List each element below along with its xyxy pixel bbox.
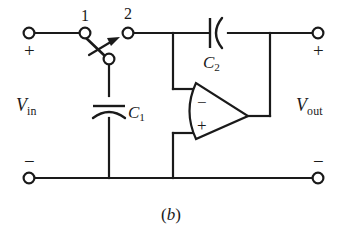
output-minus-sign: −: [313, 152, 324, 171]
input-voltage-symbol: V: [16, 95, 27, 115]
terminal-input-negative[interactable]: [24, 173, 35, 184]
spdt-switch[interactable]: [85, 37, 120, 57]
circuit-figure: 1 2 + − + − Vin Vout C1 C2 − + (b): [0, 0, 352, 235]
c2-symbol: C: [203, 53, 214, 72]
terminal-input-positive[interactable]: [24, 28, 35, 39]
inverting-input-branch: [173, 33, 196, 89]
c2-right-plate-curved: [216, 18, 222, 48]
figure-caption: (b): [161, 206, 181, 223]
terminal-node-2[interactable]: [123, 28, 134, 39]
caption-close-paren: ): [175, 205, 181, 224]
input-plus-sign: +: [24, 41, 35, 60]
output-voltage-symbol: V: [296, 95, 307, 115]
capacitor-c1-label: C1: [128, 104, 145, 124]
opamp-output-branch: [248, 33, 270, 116]
terminal-switch-lower-contact[interactable]: [104, 54, 115, 65]
opamp-noninverting-input-sign: +: [197, 117, 207, 134]
capacitor-c2-symbol: [210, 18, 222, 48]
opamp-inverting-input-sign: −: [197, 94, 207, 111]
output-plus-sign: +: [313, 41, 324, 60]
c2-subscript: 2: [214, 61, 220, 73]
output-voltage-label: Vout: [296, 96, 323, 117]
node-2-label: 2: [124, 6, 132, 22]
circuit-schematic-svg: [0, 0, 352, 235]
capacitor-c2-label: C2: [203, 54, 220, 74]
input-minus-sign: −: [24, 152, 35, 171]
noninverting-input-branch: [173, 133, 196, 178]
capacitor-c1-symbol: [93, 106, 125, 178]
terminal-output-negative[interactable]: [313, 173, 324, 184]
terminal-output-positive[interactable]: [313, 28, 324, 39]
output-voltage-subscript: out: [307, 104, 323, 118]
switch-motion-arrow-head: [107, 37, 120, 46]
caption-letter: b: [167, 205, 176, 224]
c1-subscript: 1: [139, 111, 145, 123]
c1-symbol: C: [128, 103, 139, 122]
node-1-label: 1: [81, 8, 89, 24]
input-voltage-subscript: in: [27, 104, 37, 118]
input-voltage-label: Vin: [16, 96, 37, 117]
terminal-node-1[interactable]: [80, 28, 91, 39]
